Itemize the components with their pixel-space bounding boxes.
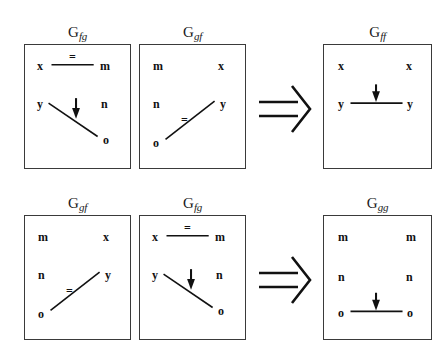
node-n: n <box>101 98 108 110</box>
edge-o-y <box>51 272 100 310</box>
node-y-left: y <box>338 98 344 110</box>
graph-label-subscript: fg <box>79 30 87 42</box>
graph-label-g-fg-bottom: Gfg <box>139 196 246 215</box>
implication-arrow-row-1 <box>258 84 318 134</box>
node-x: x <box>218 60 224 72</box>
graph-cell-g-fg-top: Gfg = x m y n o <box>24 25 131 173</box>
graph-label-base: G <box>369 24 380 40</box>
node-y: y <box>37 98 43 110</box>
node-o: o <box>38 308 44 320</box>
graph-cell-g-fg-bottom: Gfg = x m y n o <box>139 196 246 344</box>
node-m-left: m <box>338 231 348 243</box>
implies-icon <box>258 84 318 134</box>
implication-arrow-row-2 <box>258 255 318 305</box>
graph-label-base: G <box>68 24 79 40</box>
node-m-right: m <box>406 231 416 243</box>
node-o: o <box>103 134 109 146</box>
node-o: o <box>153 137 159 149</box>
arrow-down-icon <box>372 293 380 311</box>
node-m: m <box>215 231 225 243</box>
arrow-down-icon <box>72 98 80 119</box>
graph-label-subscript: gf <box>79 201 87 213</box>
node-n-left: n <box>338 271 345 283</box>
node-y: y <box>152 269 158 281</box>
node-y-right: y <box>407 98 413 110</box>
graph-cell-g-gf-top: Ggf = m x n y o <box>139 25 246 173</box>
implies-icon <box>258 255 318 305</box>
node-n-right: n <box>406 271 413 283</box>
arrow-down-icon <box>187 269 195 290</box>
node-x: x <box>152 231 158 243</box>
node-x: x <box>37 60 43 72</box>
graph-label-g-fg-top: Gfg <box>24 25 131 44</box>
node-y: y <box>220 98 226 110</box>
node-n: n <box>153 98 160 110</box>
graph-label-base: G <box>367 195 378 211</box>
graph-cell-g-gf-bottom: Ggf = m x n y o <box>24 196 131 344</box>
node-x: x <box>103 231 109 243</box>
graph-box: = m x n y o <box>139 44 246 169</box>
composition-figure: Gfg = x m y n o Ggf <box>0 0 447 360</box>
graph-box: = x m y n o <box>139 215 246 340</box>
graph-box: x x y y <box>323 44 432 169</box>
graph-label-subscript: fg <box>194 201 202 213</box>
graph-box: = m x n y o <box>24 215 131 340</box>
node-n: n <box>38 269 45 281</box>
node-o: o <box>218 305 224 317</box>
node-m: m <box>153 60 163 72</box>
graph-label-subscript: ff <box>380 30 386 42</box>
equality-marker: = <box>181 114 188 126</box>
edge-y-o <box>49 103 98 136</box>
graph-label-g-gg: Ggg <box>323 196 432 215</box>
graph-label-base: G <box>68 195 79 211</box>
graph-label-g-gf-bottom: Ggf <box>24 196 131 215</box>
graph-label-g-ff: Gff <box>323 25 432 44</box>
node-m: m <box>38 231 48 243</box>
graph-label-g-gf-top: Ggf <box>139 25 246 44</box>
equality-marker: = <box>69 51 76 63</box>
graph-label-base: G <box>183 24 194 40</box>
node-x-right: x <box>406 60 412 72</box>
edge-y-o <box>164 274 213 307</box>
node-n: n <box>216 269 223 281</box>
node-o-right: o <box>407 307 413 319</box>
edge-o-y <box>166 101 215 139</box>
node-x-left: x <box>338 60 344 72</box>
equality-marker: = <box>66 285 73 297</box>
graph-box: m m n n o o <box>323 215 432 340</box>
graph-cell-g-ff: Gff x x y y <box>323 25 432 173</box>
graph-label-subscript: gf <box>194 30 202 42</box>
arrow-down-icon <box>372 84 380 102</box>
node-y: y <box>105 269 111 281</box>
graph-box: = x m y n o <box>24 44 131 169</box>
node-m: m <box>100 60 110 72</box>
equality-marker: = <box>184 222 191 234</box>
graph-cell-g-gg: Ggg m m n n o o <box>323 196 432 344</box>
graph-label-base: G <box>183 195 194 211</box>
graph-label-subscript: gg <box>378 201 388 213</box>
node-o-left: o <box>338 307 344 319</box>
